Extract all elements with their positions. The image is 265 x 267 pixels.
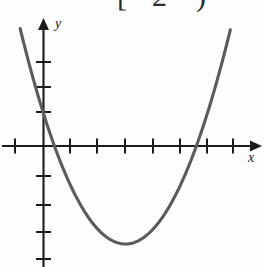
y-axis-label: y	[55, 16, 61, 32]
graph-figure: [ 2 ) y x	[0, 0, 265, 267]
coordinate-plane	[0, 0, 265, 267]
y-axis-arrowhead	[38, 18, 49, 30]
parabola-curve	[20, 29, 230, 244]
x-axis-label: x	[248, 150, 254, 166]
